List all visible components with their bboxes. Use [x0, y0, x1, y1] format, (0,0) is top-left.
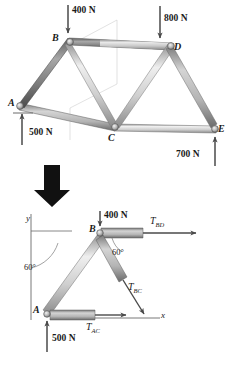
force-sub-TBD: BD	[156, 221, 165, 228]
member-CE	[114, 124, 216, 133]
member-BC	[65, 42, 117, 127]
angle-label-left: 60°	[24, 263, 36, 272]
fbd-joint-label-A: A	[33, 305, 40, 315]
member-BD	[69, 38, 172, 50]
force-label-TBD: TBD	[150, 216, 164, 229]
force-sub-TBC: BC	[134, 287, 142, 294]
fbd-member-BA	[43, 234, 105, 315]
load-label-400N: 400 N	[72, 6, 96, 16]
reaction-label-700N: 700 N	[176, 150, 200, 160]
force-sub-TAC: AC	[92, 327, 100, 334]
member-CD	[114, 44, 174, 128]
down-arrow-icon	[34, 165, 70, 207]
fbd-joint-label-B: B	[89, 224, 96, 234]
fbd-reaction-label-500N: 500 N	[52, 334, 76, 344]
force-label-TAC: TAC	[86, 322, 100, 335]
figure-canvas: B A C D E 400 N 800 N 500 N 700 N y x B …	[0, 0, 231, 365]
force-label-TBC: TBC	[128, 282, 142, 295]
angle-label-right: 60°	[112, 248, 124, 257]
fbd-member-BC	[96, 235, 127, 282]
truss-assembly	[13, 5, 218, 166]
joint-label-C: C	[108, 133, 115, 143]
fbd-pin-joint-B	[97, 230, 104, 237]
fbd-member-AC	[50, 310, 95, 320]
pin-joint-B	[67, 39, 74, 46]
joint-label-E: E	[218, 124, 225, 134]
joint-label-A: A	[8, 98, 15, 108]
fbd-pin-joint-A	[44, 311, 51, 318]
reaction-label-500N: 500 N	[29, 128, 53, 138]
member-DE	[166, 45, 217, 128]
pin-joint-C	[112, 124, 119, 131]
load-label-800N: 800 N	[164, 14, 188, 24]
member-AB	[19, 38, 73, 108]
y-axis-label: y	[26, 214, 30, 223]
free-body-diagram	[31, 211, 196, 352]
joint-label-D: D	[174, 42, 181, 52]
joint-label-B: B	[52, 33, 59, 43]
x-axis-label: x	[161, 311, 165, 320]
fbd-member-BD	[101, 228, 143, 238]
fbd-load-label-400N: 400 N	[104, 211, 128, 221]
pin-joint-A	[17, 103, 24, 110]
